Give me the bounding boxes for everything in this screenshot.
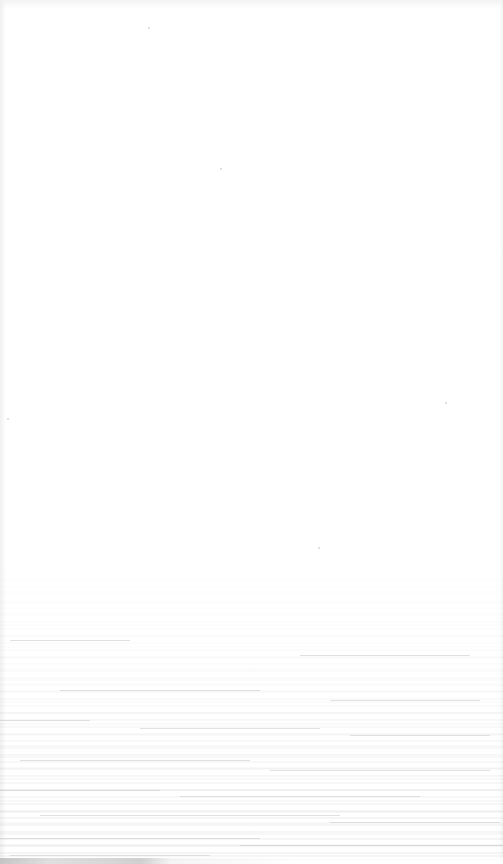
dust-speck	[220, 168, 222, 170]
grain-streak	[330, 700, 480, 701]
grain-streak	[0, 838, 260, 839]
photo-canvas	[0, 0, 503, 864]
grain-streak	[240, 845, 503, 846]
horizontal-grain-texture	[0, 560, 503, 864]
dust-speck	[148, 27, 150, 29]
grain-streak	[330, 822, 500, 823]
grain-streak	[270, 770, 490, 771]
top-edge-shade	[0, 0, 503, 8]
grain-streak	[20, 760, 250, 761]
grain-streak	[300, 655, 470, 656]
grain-streak	[10, 855, 210, 856]
grain-streak	[0, 790, 160, 791]
grain-streak	[140, 728, 320, 729]
dust-speck	[7, 418, 9, 420]
grain-streak	[40, 815, 340, 816]
dust-speck	[318, 547, 320, 549]
grain-streak	[0, 720, 90, 721]
grain-streak	[350, 735, 490, 736]
grain-streak	[60, 690, 260, 691]
grain-streak	[10, 640, 130, 641]
bottom-edge-shadow	[0, 858, 503, 864]
grain-streak	[180, 796, 420, 797]
dust-speck	[445, 402, 447, 404]
